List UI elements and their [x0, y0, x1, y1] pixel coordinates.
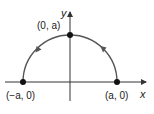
point-label-right: (a, 0) [105, 90, 128, 101]
point-right [114, 79, 120, 85]
x-axis-label: x [139, 88, 146, 100]
point-label-left: (−a, 0) [6, 90, 35, 101]
y-axis-label: y [60, 7, 68, 19]
point-top [67, 32, 73, 38]
point-label-top: (0, a) [37, 20, 60, 31]
point-left [20, 79, 26, 85]
semicircle-diagram: y x (0, a) (−a, 0) (a, 0) [0, 0, 154, 114]
